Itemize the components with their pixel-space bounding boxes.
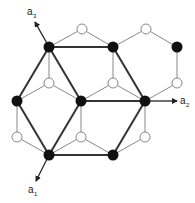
honeycomb-lattice-diagram: a1a2a3 <box>0 0 195 203</box>
vector-subscript-a3: 3 <box>33 13 37 19</box>
black-atom-node <box>140 96 151 107</box>
black-atom-node <box>108 42 119 53</box>
unit-cell-edge <box>17 101 49 155</box>
unit-cell-edge <box>49 47 81 101</box>
black-atom-node <box>44 150 55 161</box>
white-atom-node <box>141 24 151 34</box>
unit-cell-edge <box>49 101 81 155</box>
bond-edge <box>81 137 113 155</box>
black-atom-node <box>108 150 119 161</box>
unit-cell-edge <box>113 47 145 101</box>
unit-cell-edge <box>113 101 145 155</box>
bond-edge <box>113 29 146 47</box>
white-atom-node <box>140 132 150 142</box>
black-atom-node <box>172 42 183 53</box>
white-atom-node <box>108 78 118 88</box>
bond-edge <box>81 83 113 101</box>
white-atom-node <box>77 24 87 34</box>
black-atom-node <box>76 96 87 107</box>
black-atom-node <box>12 96 23 107</box>
vector-subscript-a2: 2 <box>186 102 190 108</box>
bond-edge <box>145 83 177 101</box>
black-atom-node <box>44 42 55 53</box>
white-sublattice-nodes <box>12 24 182 142</box>
white-atom-node <box>172 78 182 88</box>
white-atom-node <box>44 78 54 88</box>
unit-cell-edge <box>17 47 49 101</box>
white-atom-node <box>12 132 22 142</box>
vector-subscript-a1: 1 <box>34 191 38 197</box>
bond-edge <box>49 29 82 47</box>
white-atom-node <box>76 132 86 142</box>
